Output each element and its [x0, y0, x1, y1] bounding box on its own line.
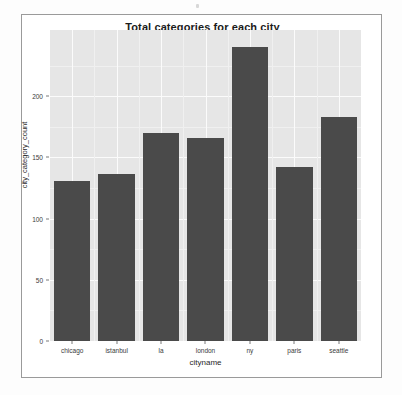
y-tick-label: 50 — [36, 276, 43, 283]
x-tick-mark — [294, 341, 295, 344]
bar-la[interactable] — [143, 133, 179, 341]
bar-slot — [317, 30, 361, 341]
x-tick-mark — [338, 341, 339, 344]
plot-panel — [50, 30, 361, 341]
y-tick-mark — [46, 279, 49, 280]
x-tick-mark — [72, 341, 73, 344]
bar-seattle[interactable] — [321, 117, 357, 341]
x-tick-mark — [249, 341, 250, 344]
y-tick-label: 0 — [39, 338, 43, 345]
y-tick-label: 100 — [32, 215, 43, 222]
chart-screenshot: Total categories for each city city_cate… — [0, 0, 402, 395]
bar-london[interactable] — [187, 138, 223, 341]
bars-layer — [50, 30, 361, 341]
y-tick-mark — [46, 218, 49, 219]
x-tick-label-ny: ny — [228, 347, 272, 354]
y-tick-mark — [46, 157, 49, 158]
bar-paris[interactable] — [276, 167, 312, 341]
y-tick-label: 200 — [32, 93, 43, 100]
y-tick-mark — [46, 96, 49, 97]
bar-slot — [183, 30, 227, 341]
bar-ny[interactable] — [232, 47, 268, 341]
bar-slot — [139, 30, 183, 341]
bar-istanbul[interactable] — [98, 174, 134, 341]
x-tick-label-istanbul: istanbul — [94, 347, 138, 354]
x-tick-label-la: la — [139, 347, 183, 354]
x-tick-label-paris: paris — [272, 347, 316, 354]
x-tick-label-chicago: chicago — [50, 347, 94, 354]
x-tick-mark — [116, 341, 117, 344]
x-tick-mark — [161, 341, 162, 344]
x-tick-label-seattle: seattle — [317, 347, 361, 354]
y-axis: 050100150200 — [21, 30, 50, 341]
bar-chicago[interactable] — [54, 181, 90, 341]
scan-artifact-speck — [196, 4, 199, 8]
x-axis-title: cityname — [50, 358, 361, 367]
x-tick-mark — [205, 341, 206, 344]
y-tick-label: 150 — [32, 154, 43, 161]
bar-slot — [94, 30, 138, 341]
bar-slot — [272, 30, 316, 341]
bar-slot — [50, 30, 94, 341]
x-tick-label-london: london — [183, 347, 227, 354]
bar-slot — [228, 30, 272, 341]
y-tick-mark — [46, 341, 49, 342]
